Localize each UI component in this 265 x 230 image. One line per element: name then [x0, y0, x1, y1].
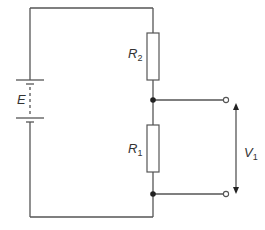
label-r1: R1 — [128, 141, 142, 158]
label-e: E — [17, 92, 26, 107]
resistor-r2 — [147, 33, 159, 80]
voltage-arrow — [233, 103, 239, 194]
terminal-top — [223, 97, 228, 102]
junction-dot-bottom — [150, 191, 156, 197]
terminal-bottom — [223, 191, 228, 196]
resistor-r1 — [147, 125, 159, 172]
arrowhead-down-icon — [233, 187, 239, 194]
junction-dot-top — [150, 97, 156, 103]
circuit-diagram: E R2 R1 V1 — [0, 0, 265, 230]
arrowhead-up-icon — [233, 103, 239, 110]
label-v1: V1 — [244, 145, 258, 162]
label-r2: R2 — [128, 46, 142, 63]
